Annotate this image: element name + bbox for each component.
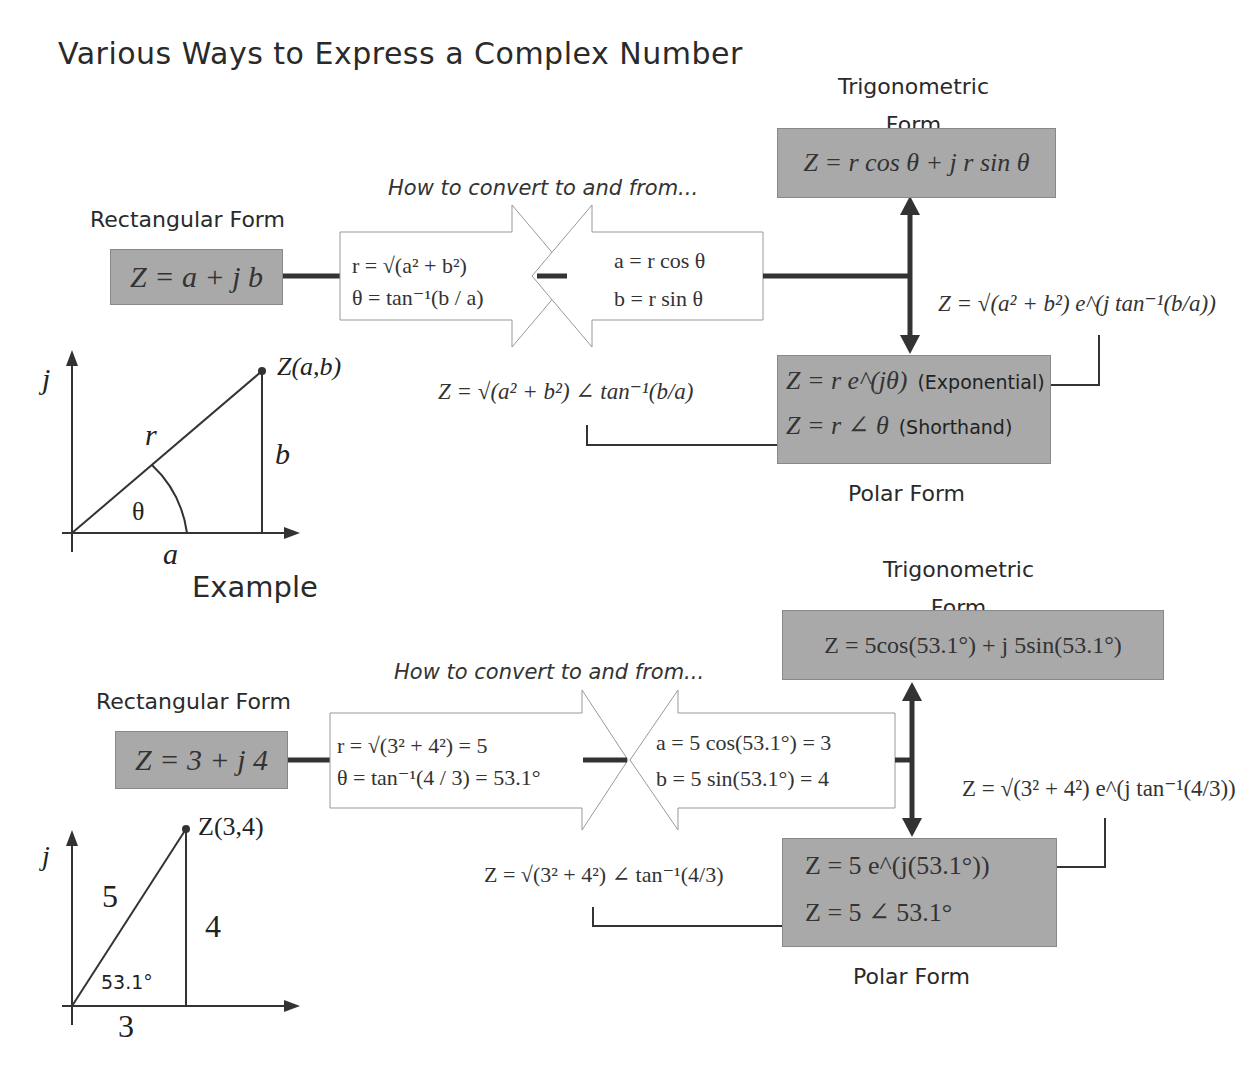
example-polar-form-label: Polar Form xyxy=(853,964,970,989)
shorthand-equation: Z = r ∠ θ xyxy=(786,410,889,441)
example-to-rect-conversion: a = 5 cos(53.1°) = 3 b = 5 sin(53.1°) = … xyxy=(656,725,831,797)
example-rectangular-equation: Z = 3 + j 4 xyxy=(135,743,268,777)
example-to-polar-conversion: r = √(3² + 4²) = 5 θ = tan⁻¹(4 / 3) = 53… xyxy=(337,730,541,794)
example-trigonometric-equation: Z = 5cos(53.1°) + j 5sin(53.1°) xyxy=(824,632,1122,659)
b-formula: b = r sin θ xyxy=(614,280,705,318)
angle-label: θ xyxy=(132,497,144,527)
exponential-note: (Exponential) xyxy=(917,371,1044,393)
example-point-label: Z(3,4) xyxy=(198,812,264,842)
example-hypotenuse-label: 5 xyxy=(102,878,118,915)
example-trigonometric-form-box: Z = 5cos(53.1°) + j 5sin(53.1°) xyxy=(782,610,1164,680)
diagram-connectors xyxy=(0,0,1253,1080)
example-rectangular-form-label: Rectangular Form xyxy=(96,689,291,714)
trigonometric-equation: Z = r cos θ + j r sin θ xyxy=(803,148,1029,178)
example-shorthand-equation: Z = 5 ∠ 53.1° xyxy=(805,897,1034,928)
polar-form-label: Polar Form xyxy=(848,481,965,506)
example-exponential-expanded-formula: Z = √(3² + 4²) e^(j tan⁻¹(4/3)) xyxy=(962,775,1236,802)
convert-label: How to convert to and from... xyxy=(388,176,698,200)
example-r-formula: r = √(3² + 4²) = 5 xyxy=(337,730,541,762)
rectangular-form-label: Rectangular Form xyxy=(90,207,285,232)
example-theta-formula: θ = tan⁻¹(4 / 3) = 53.1° xyxy=(337,762,541,794)
angle-expanded-formula: Z = √(a² + b²) ∠ tan⁻¹(b/a) xyxy=(438,378,693,405)
page-title: Various Ways to Express a Complex Number xyxy=(58,36,743,71)
theta-formula: θ = tan⁻¹(b / a) xyxy=(352,282,484,314)
a-formula: a = r cos θ xyxy=(614,242,705,280)
example-polar-form-box: Z = 5 e^(j(53.1°)) Z = 5 ∠ 53.1° xyxy=(782,838,1057,947)
example-adjacent-label: 3 xyxy=(118,1008,134,1045)
shorthand-note: (Shorthand) xyxy=(899,416,1013,438)
example-heading: Example xyxy=(192,570,318,604)
opposite-label: b xyxy=(275,437,290,471)
r-formula: r = √(a² + b²) xyxy=(352,250,484,282)
imaginary-axis-label: j xyxy=(42,362,50,396)
rectangular-form-box: Z = a + j b xyxy=(110,249,283,305)
exponential-equation: Z = r e^(jθ) xyxy=(786,366,907,396)
to-rect-conversion: a = r cos θ b = r sin θ xyxy=(614,242,705,318)
to-polar-conversion: r = √(a² + b²) θ = tan⁻¹(b / a) xyxy=(352,250,484,314)
exponential-expanded-formula: Z = √(a² + b²) e^(j tan⁻¹(b/a)) xyxy=(938,290,1216,317)
adjacent-label: a xyxy=(163,537,178,571)
example-imaginary-axis-label: j xyxy=(42,840,50,872)
example-b-formula: b = 5 sin(53.1°) = 4 xyxy=(656,761,831,797)
example-a-formula: a = 5 cos(53.1°) = 3 xyxy=(656,725,831,761)
example-angle-expanded-formula: Z = √(3² + 4²) ∠ tan⁻¹(4/3) xyxy=(484,862,723,888)
polar-form-box: Z = r e^(jθ) (Exponential) Z = r ∠ θ (Sh… xyxy=(777,355,1051,464)
example-rectangular-form-box: Z = 3 + j 4 xyxy=(115,731,288,789)
example-opposite-label: 4 xyxy=(205,908,221,945)
point-label: Z(a,b) xyxy=(277,352,341,382)
hypotenuse-label: r xyxy=(145,418,157,452)
example-angle-label: 53.1° xyxy=(101,971,153,993)
example-exponential-equation: Z = 5 e^(j(53.1°)) xyxy=(805,851,1034,881)
rectangular-equation: Z = a + j b xyxy=(130,260,263,294)
trigonometric-form-box: Z = r cos θ + j r sin θ xyxy=(777,128,1056,198)
example-convert-label: How to convert to and from... xyxy=(394,660,704,684)
